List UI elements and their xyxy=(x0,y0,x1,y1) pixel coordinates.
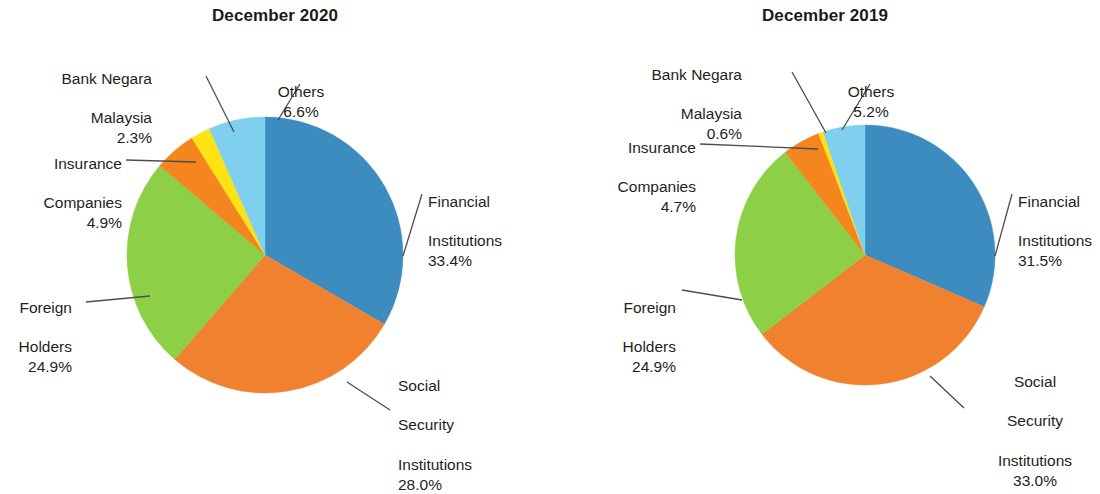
label-line-1: Others xyxy=(278,83,325,100)
label-others-right: Others 5.2% xyxy=(828,62,914,141)
label-percent: 24.9% xyxy=(600,357,676,377)
label-line-2: Malaysia xyxy=(91,109,152,126)
label-percent: 33.4% xyxy=(428,251,550,271)
label-insurance-companies-right: Insurance Companies 4.7% xyxy=(574,118,696,237)
label-percent: 4.7% xyxy=(574,197,696,217)
label-line-1: Insurance xyxy=(54,155,122,172)
label-line-2: Holders xyxy=(623,338,676,355)
leader-line-bank-negara-left xyxy=(206,76,234,132)
label-line-1: Foreign xyxy=(623,299,676,316)
leader-line-financial-institutions-right xyxy=(995,194,1012,256)
label-foreign-holders-right: Foreign Holders 24.9% xyxy=(600,278,676,397)
label-percent: 31.5% xyxy=(1018,251,1100,271)
label-line-1: Social xyxy=(398,377,440,394)
label-percent: 5.2% xyxy=(828,102,914,122)
label-line-1: Others xyxy=(848,83,895,100)
label-financial-institutions-right: Financial Institutions 31.5% xyxy=(1018,172,1100,291)
label-line-1: Financial xyxy=(428,193,490,210)
label-line-2: Institutions xyxy=(1018,232,1092,249)
leader-line-social-security-right xyxy=(930,376,964,408)
chart-panel-december-2020: December 2020 Bank Negara Malaysia 2.3% … xyxy=(0,0,550,436)
label-financial-institutions-left: Financial Institutions 33.4% xyxy=(428,172,550,291)
label-social-security-institutions-right: Social Security Institutions 33.0% xyxy=(970,352,1100,494)
label-line-1: Financial xyxy=(1018,193,1080,210)
label-line-2: Holders xyxy=(19,338,72,355)
label-line-2: Security xyxy=(1007,412,1063,429)
label-line-3: Institutions xyxy=(398,456,472,473)
leader-line-foreign-holders-right xyxy=(682,290,742,300)
label-line-2: Security xyxy=(398,416,454,433)
label-line-3: Institutions xyxy=(998,452,1072,469)
label-line-1: Bank Negara xyxy=(652,66,742,83)
leader-line-bank-negara-right xyxy=(792,72,826,133)
label-foreign-holders-left: Foreign Holders 24.9% xyxy=(0,278,72,397)
pie-slices-left xyxy=(127,117,403,393)
label-line-1: Insurance xyxy=(628,139,696,156)
label-percent: 6.6% xyxy=(258,102,344,122)
label-insurance-companies-left: Insurance Companies 4.9% xyxy=(0,134,122,253)
chart-panel-december-2019: December 2019 Bank Negara Malaysia 0.6% … xyxy=(550,0,1100,436)
label-line-2: Institutions xyxy=(428,232,502,249)
label-line-2: Companies xyxy=(618,178,696,195)
leader-line-social-security-left xyxy=(347,382,390,410)
label-social-security-institutions-left: Social Security Institutions 28.0% xyxy=(398,356,550,494)
label-percent: 24.9% xyxy=(0,357,72,377)
leader-line-financial-institutions-left xyxy=(403,194,422,256)
pie-slices-right xyxy=(735,125,995,385)
label-percent: 28.0% xyxy=(398,475,550,494)
label-line-2: Companies xyxy=(44,194,122,211)
label-line-1: Bank Negara xyxy=(62,70,152,87)
label-line-1: Foreign xyxy=(19,299,72,316)
label-percent: 4.9% xyxy=(0,213,122,233)
label-percent: 33.0% xyxy=(970,471,1100,491)
label-others-left: Others 6.6% xyxy=(258,62,344,141)
label-line-1: Social xyxy=(1014,373,1056,390)
